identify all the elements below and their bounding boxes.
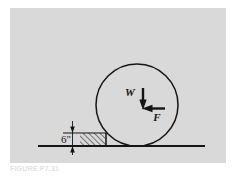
step-block-fill — [80, 133, 106, 146]
figure-container: 6" W F FIGURE P7.31 — [0, 0, 234, 177]
step-height-dimension: 6" — [61, 121, 75, 155]
wheel-circle — [96, 64, 178, 146]
figure-caption: FIGURE P7.31 — [10, 165, 226, 172]
mechanics-diagram: 6" W F — [0, 0, 234, 177]
weight-label: W — [125, 86, 136, 98]
step-height-label: 6" — [61, 133, 71, 145]
force-label: F — [152, 111, 161, 123]
